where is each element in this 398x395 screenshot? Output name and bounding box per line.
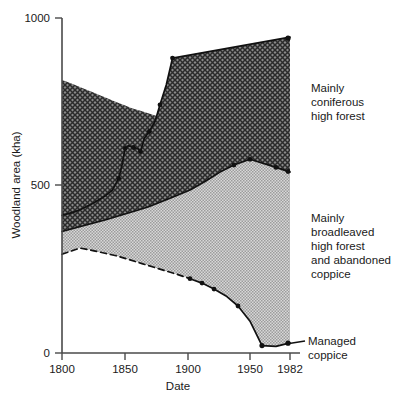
annot-coniferous-line3: high forest: [311, 110, 366, 122]
x-tick-label-1950: 1950: [237, 363, 263, 375]
y-tick-label-500: 500: [31, 179, 50, 191]
x-axis-title: Date: [166, 380, 190, 392]
chart-svg: 1000 500 0 1800 1850 1900 1950 1982 Date…: [0, 0, 398, 395]
x-tick-label-1800: 1800: [49, 363, 75, 375]
annotations: Mainly coniferous high forest Mainly bro…: [286, 82, 391, 361]
annot-coppice-line2: coppice: [308, 349, 348, 361]
annot-broadleaved-line3: high forest: [311, 240, 366, 252]
annot-broadleaved-line5: coppice: [311, 268, 351, 280]
y-axis-title: Woodland area (kha): [10, 131, 22, 238]
y-tick-label-0: 0: [44, 347, 50, 359]
annot-broadleaved-line1: Mainly: [311, 212, 344, 224]
annot-broadleaved-line4: and abandoned: [311, 254, 391, 266]
woodland-area-chart: 1000 500 0 1800 1850 1900 1950 1982 Date…: [0, 0, 398, 395]
annot-coppice-line1: Managed: [308, 335, 356, 347]
annot-broadleaved-line2: broadleaved: [311, 226, 374, 238]
annot-coniferous-line1: Mainly: [311, 82, 344, 94]
y-tick-label-1000: 1000: [24, 12, 50, 24]
annot-coniferous-line2: coniferous: [311, 96, 364, 108]
x-tick-label-1982: 1982: [277, 363, 303, 375]
x-tick-label-1850: 1850: [112, 363, 138, 375]
x-tick-label-1900: 1900: [175, 363, 201, 375]
